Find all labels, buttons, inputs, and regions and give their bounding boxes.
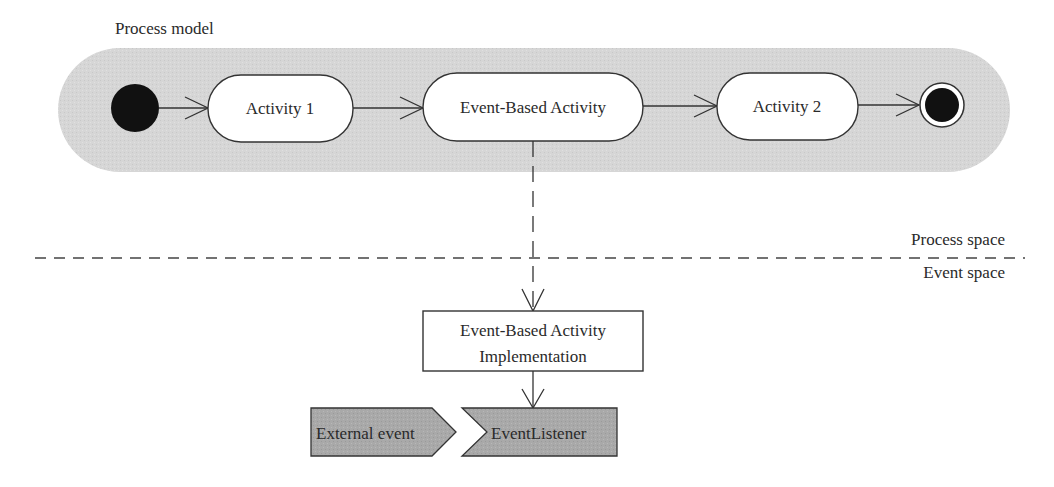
final-node-icon[interactable] — [920, 83, 964, 127]
process-space-label: Process space — [911, 230, 1005, 249]
event-space-label: Event space — [923, 263, 1005, 282]
activity-2-node[interactable]: Activity 2 — [717, 73, 858, 140]
initial-node-icon[interactable] — [111, 84, 159, 132]
external-event-node[interactable]: External event — [311, 408, 456, 456]
implementation-label-line1: Event-Based Activity — [460, 321, 606, 340]
process-diagram: Process model Activity 1 Event-Based Act… — [0, 0, 1054, 487]
activity-2-label: Activity 2 — [753, 97, 821, 116]
activity-1-label: Activity 1 — [246, 99, 314, 118]
implementation-box[interactable]: Event-Based Activity Implementation — [423, 311, 643, 371]
external-event-label: External event — [316, 424, 415, 443]
implementation-label-line2: Implementation — [479, 347, 587, 366]
edge-implementation-to-event-listener — [522, 371, 544, 408]
event-listener-label: EventListener — [491, 424, 587, 443]
process-model-title: Process model — [115, 19, 214, 38]
event-listener-node[interactable]: EventListener — [462, 408, 617, 456]
event-based-activity-node[interactable]: Event-Based Activity — [423, 73, 643, 141]
activity-1-node[interactable]: Activity 1 — [208, 75, 353, 142]
event-based-activity-label: Event-Based Activity — [460, 98, 606, 117]
